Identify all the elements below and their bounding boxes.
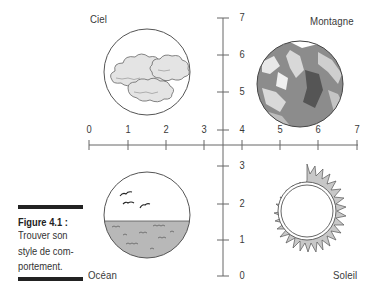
x-tick-4: 4 [239,123,244,135]
x-tick-3: 3 [201,123,206,135]
label-soleil: Soleil [333,269,357,281]
caption-bottom-rule [18,277,83,281]
figure-caption: Figure 4.1 : Trouver son style de com- p… [18,205,86,281]
y-tick-3: 3 [239,159,244,171]
caption-line-3: portement. [18,259,76,275]
sun-icon [274,164,346,252]
caption-line-2: style de com- [18,244,76,260]
y-tick-1: 1 [239,233,244,245]
label-montagne: Montagne [310,15,354,27]
x-tick-5: 5 [277,123,282,135]
ocean-birds-icon [100,172,195,261]
y-tick-7: 7 [239,11,244,23]
y-tick-6: 6 [239,48,244,60]
x-tick-7: 7 [354,123,359,135]
caption-title: Figure 4.1 : [18,216,76,228]
y-tick-2: 2 [239,197,244,209]
mountain-icon [255,38,347,130]
clouds-icon [104,29,190,115]
y-axis [217,18,229,276]
x-tick-1: 1 [125,123,130,135]
x-tick-0: 0 [86,123,91,135]
caption-top-rule [18,205,83,209]
y-tick-0: 0 [239,269,244,281]
x-tick-2: 2 [163,123,168,135]
caption-line-1: Trouver son [18,228,76,244]
label-ocean: Océan [88,269,117,281]
y-tick-5: 5 [239,85,244,97]
label-ciel: Ciel [90,13,107,25]
x-tick-6: 6 [315,123,320,135]
